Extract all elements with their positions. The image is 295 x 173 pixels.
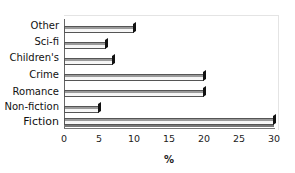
bar-childrens [64, 58, 113, 65]
category-label-fiction: Fiction [23, 116, 59, 128]
bar-fiction-base [64, 125, 274, 127]
x-tick-25: 25 [229, 133, 249, 144]
category-label-childrens: Children's [9, 52, 59, 64]
bar-fiction [64, 118, 274, 125]
bar-crime [64, 74, 204, 81]
category-label-scifi: Sci-fi [34, 36, 59, 48]
bar-scifi [64, 42, 106, 49]
category-label-other: Other [31, 20, 59, 32]
bar-nonfiction [64, 106, 99, 113]
category-label-crime: Crime [29, 69, 59, 81]
x-tick-0: 0 [54, 133, 74, 144]
x-tick-30: 30 [264, 133, 284, 144]
category-label-romance: Romance [13, 86, 59, 98]
x-axis [64, 128, 275, 129]
x-tick-15: 15 [159, 133, 179, 144]
x-tick-10: 10 [124, 133, 144, 144]
bar-romance [64, 90, 204, 97]
category-label-nonfiction: Non-fiction [5, 101, 60, 113]
x-tick-5: 5 [89, 133, 109, 144]
bar-other [64, 26, 134, 33]
x-axis-label: % [164, 154, 174, 165]
x-tick-20: 20 [194, 133, 214, 144]
